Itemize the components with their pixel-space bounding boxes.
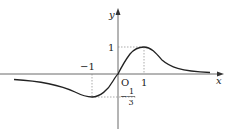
- y-axis-arrow-icon: [116, 8, 121, 15]
- y-tick-neg-third-label: − 1 3: [120, 87, 135, 107]
- function-graph: y x O 1 1 −1 − 1 3: [0, 0, 229, 131]
- fraction-minus-sign: −: [120, 91, 128, 101]
- x-tick-1-label: 1: [141, 77, 147, 88]
- function-curve: [14, 47, 210, 97]
- y-axis: [116, 8, 121, 129]
- fraction-denominator: 3: [129, 98, 134, 107]
- origin-label: O: [121, 77, 129, 88]
- y-tick-1-label: 1: [108, 42, 114, 53]
- y-axis-label: y: [108, 9, 115, 20]
- x-axis-label: x: [216, 75, 222, 86]
- x-tick-neg1-label: −1: [80, 61, 95, 72]
- x-axis: [0, 72, 224, 77]
- fraction-numerator: 1: [129, 87, 134, 96]
